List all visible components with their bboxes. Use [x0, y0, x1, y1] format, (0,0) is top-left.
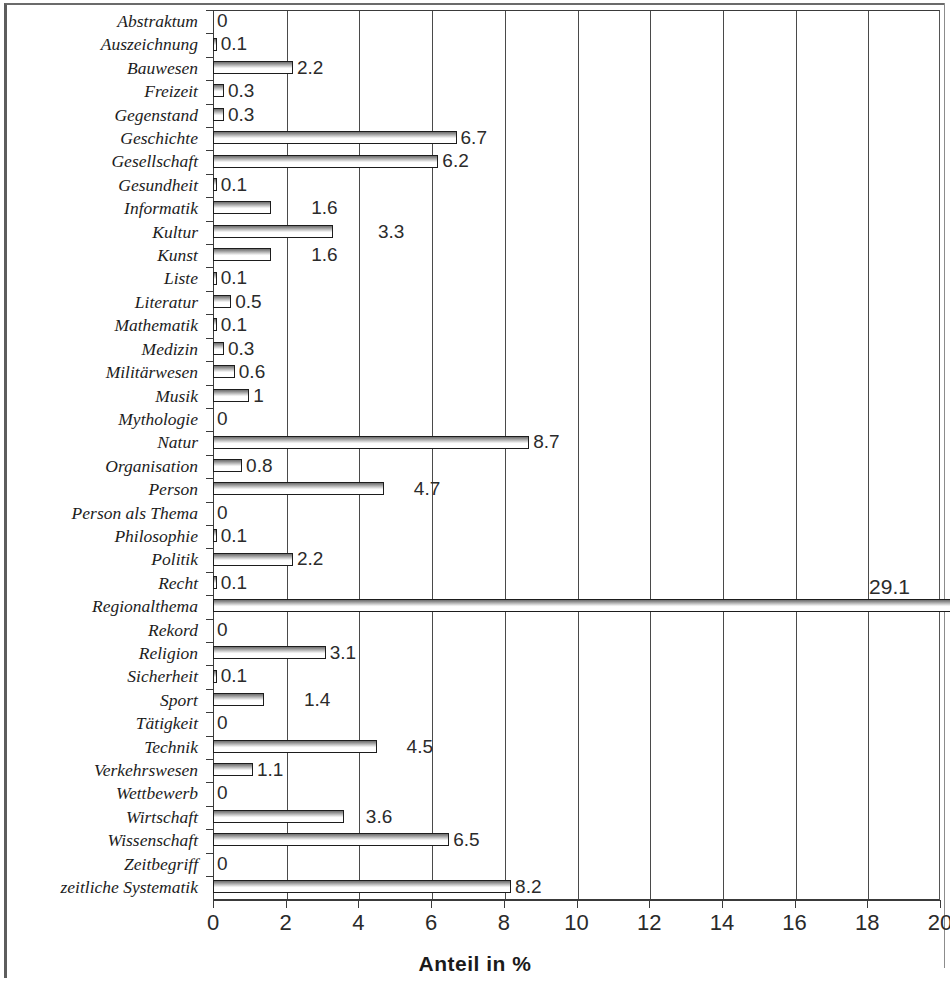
- x-tick-16: [795, 900, 796, 908]
- x-tick-10: [577, 900, 578, 908]
- bar[interactable]: [213, 763, 253, 776]
- bar[interactable]: [213, 318, 217, 331]
- bar-row: 0: [213, 782, 940, 805]
- bar-row: 3.1: [213, 642, 940, 665]
- category-label: Regionalthema: [0, 595, 206, 618]
- bar[interactable]: [213, 670, 217, 683]
- bar-row: 0.1: [213, 314, 940, 337]
- bar[interactable]: [213, 295, 231, 308]
- bar[interactable]: [213, 365, 235, 378]
- category-label: Gesellschaft: [0, 150, 206, 173]
- bar-value-label: 3.6: [366, 806, 392, 830]
- y-tick: [206, 338, 213, 339]
- category-label: Sport: [0, 689, 206, 712]
- bar-row: 6.7: [213, 127, 940, 150]
- bar-value-label: 0.1: [221, 33, 247, 57]
- category-label: Bauwesen: [0, 57, 206, 80]
- x-tick-18: [867, 900, 868, 908]
- category-label: Mythologie: [0, 408, 206, 431]
- bar-rows: 00.12.20.30.36.76.20.11.63.31.60.10.50.1…: [213, 10, 940, 900]
- x-tick-label: 6: [425, 910, 437, 936]
- bar[interactable]: [213, 553, 293, 566]
- y-tick: [206, 502, 213, 503]
- x-tick-label: 18: [855, 910, 879, 936]
- category-label: Literatur: [0, 291, 206, 314]
- bar-value-label: 4.5: [407, 736, 433, 760]
- bar[interactable]: [213, 38, 217, 51]
- y-tick: [206, 548, 213, 549]
- y-tick: [206, 853, 213, 854]
- bar-value-label: 8.2: [515, 876, 541, 900]
- bar[interactable]: [213, 646, 326, 659]
- bar[interactable]: [213, 225, 333, 238]
- bar-value-label: 1.1: [257, 759, 283, 783]
- bar[interactable]: [213, 482, 384, 495]
- bar-value-label: 2.2: [297, 57, 323, 81]
- bar[interactable]: [213, 272, 217, 285]
- bar-value-label: 0.6: [239, 361, 265, 385]
- y-tick: [206, 759, 213, 760]
- bar-value-label: 0: [217, 712, 228, 736]
- bar[interactable]: [213, 576, 217, 589]
- y-tick: [206, 876, 213, 877]
- category-label: Militärwesen: [0, 361, 206, 384]
- bar-row: 0.3: [213, 104, 940, 127]
- category-label: Recht: [0, 572, 206, 595]
- x-tick-2: [286, 900, 287, 908]
- y-tick: [206, 361, 213, 362]
- y-tick: [206, 221, 213, 222]
- bar[interactable]: [213, 599, 950, 612]
- bar-value-label: 6.5: [453, 829, 479, 853]
- bar[interactable]: [213, 84, 224, 97]
- x-tick-20: [940, 900, 941, 908]
- bar-value-label: 0.3: [228, 338, 254, 362]
- bar[interactable]: [213, 693, 264, 706]
- y-tick: [206, 104, 213, 105]
- bar[interactable]: [213, 389, 249, 402]
- bar-value-label: 0.1: [221, 572, 247, 596]
- y-tick: [206, 127, 213, 128]
- bar-row: 8.7: [213, 431, 940, 454]
- bar[interactable]: [213, 178, 217, 191]
- bar[interactable]: [213, 740, 377, 753]
- x-tick-label: 16: [782, 910, 806, 936]
- bar-row: 4.7: [213, 478, 940, 501]
- category-label: Organisation: [0, 455, 206, 478]
- bar-row: 0.5: [213, 291, 940, 314]
- bar[interactable]: [213, 810, 344, 823]
- bar[interactable]: [213, 880, 511, 893]
- bar-value-label: 0.3: [228, 80, 254, 104]
- x-tick-4: [358, 900, 359, 908]
- bar[interactable]: [213, 108, 224, 121]
- y-tick: [206, 642, 213, 643]
- bar[interactable]: [213, 459, 242, 472]
- bar[interactable]: [213, 201, 271, 214]
- bar[interactable]: [213, 529, 217, 542]
- bar[interactable]: [213, 155, 438, 168]
- bar-row: 8.2: [213, 876, 940, 899]
- bar-value-label: 0.1: [221, 665, 247, 689]
- bar-value-label: 1.6: [311, 197, 337, 221]
- bar[interactable]: [213, 248, 271, 261]
- category-label: Auszeichnung: [0, 33, 206, 56]
- y-tick: [206, 385, 213, 386]
- y-tick: [206, 806, 213, 807]
- bar-value-label: 0: [217, 853, 228, 877]
- bar[interactable]: [213, 131, 457, 144]
- y-tick: [206, 431, 213, 432]
- bar-value-label: 0: [217, 10, 228, 34]
- category-label: Liste: [0, 267, 206, 290]
- category-label: Rekord: [0, 619, 206, 642]
- x-tick-12: [649, 900, 650, 908]
- bar[interactable]: [213, 436, 529, 449]
- bar-value-label: 4.7: [414, 478, 440, 502]
- x-tick-label: 2: [280, 910, 292, 936]
- bar-row: 0: [213, 408, 940, 431]
- bar[interactable]: [213, 342, 224, 355]
- category-label: Medizin: [0, 338, 206, 361]
- bar[interactable]: [213, 61, 293, 74]
- bar-row: 0.3: [213, 338, 940, 361]
- y-tick: [206, 314, 213, 315]
- category-label: Gesundheit: [0, 174, 206, 197]
- bar[interactable]: [213, 833, 449, 846]
